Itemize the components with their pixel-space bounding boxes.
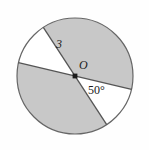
center-point-dot: [73, 74, 78, 79]
angle-label: 50°: [88, 84, 105, 96]
center-point-label: O: [79, 59, 88, 71]
radius-label: 3: [56, 38, 62, 50]
circle-diagram: [0, 0, 149, 150]
figure-container: 3 O 50°: [0, 0, 149, 150]
